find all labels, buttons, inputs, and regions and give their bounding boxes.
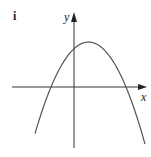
y-axis-arrow: [71, 12, 77, 22]
chart: i y x: [0, 0, 151, 157]
panel-label: i: [13, 9, 17, 23]
y-axis-label: y: [63, 10, 70, 24]
x-axis-label: x: [140, 90, 147, 104]
parabola-curve: [35, 42, 145, 144]
